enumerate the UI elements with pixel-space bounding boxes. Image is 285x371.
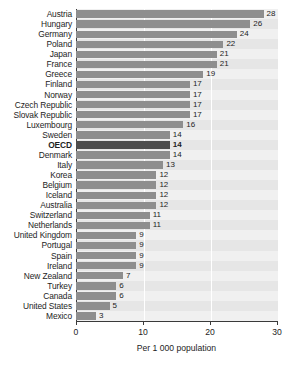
- bar-row: Germany24: [0, 29, 285, 39]
- category-label-mexico: Mexico: [0, 311, 72, 321]
- category-label-ireland: Ireland: [0, 261, 72, 271]
- bar-value-label: 9: [139, 261, 143, 271]
- bar-value-label: 3: [99, 311, 103, 321]
- category-label-switzerland: Switzerland: [0, 210, 72, 220]
- category-label-new-zealand: New Zealand: [0, 271, 72, 281]
- category-label-hungary: Hungary: [0, 19, 72, 29]
- x-tick-label: 20: [205, 327, 215, 337]
- bar: [76, 81, 190, 88]
- bar-value-label: 17: [193, 90, 202, 100]
- bar: [76, 111, 190, 118]
- category-label-austria: Austria: [0, 9, 72, 19]
- category-label-japan: Japan: [0, 49, 72, 59]
- bar: [76, 242, 136, 249]
- bar-value-label: 14: [173, 150, 182, 160]
- bar-row: Portugal9: [0, 240, 285, 250]
- category-label-turkey: Turkey: [0, 281, 72, 291]
- bar: [76, 252, 136, 259]
- chart-title-remnant: [0, 0, 285, 1]
- bar-value-label: 16: [186, 120, 195, 130]
- bar-row: Hungary26: [0, 19, 285, 29]
- bar-row: Mexico3: [0, 311, 285, 321]
- category-label-czech-republic: Czech Republic: [0, 100, 72, 110]
- bar: [76, 202, 156, 209]
- x-tick-label: 0: [74, 327, 79, 337]
- bar-row: Denmark14: [0, 150, 285, 160]
- bar-row: Australia12: [0, 200, 285, 210]
- bar: [76, 41, 223, 48]
- category-label-slovak-republic: Slovak Republic: [0, 110, 72, 120]
- bar-row: New Zealand7: [0, 271, 285, 281]
- bar: [76, 141, 170, 148]
- category-label-italy: Italy: [0, 160, 72, 170]
- bar: [76, 20, 250, 27]
- category-label-iceland: Iceland: [0, 190, 72, 200]
- category-label-luxembourg: Luxembourg: [0, 120, 72, 130]
- bar-value-label: 12: [159, 170, 168, 180]
- bar-value-label: 6: [119, 291, 123, 301]
- bar-value-label: 21: [220, 59, 229, 69]
- bar: [76, 272, 123, 279]
- category-label-australia: Australia: [0, 200, 72, 210]
- bar-row: Switzerland11: [0, 210, 285, 220]
- bar: [76, 181, 156, 188]
- bar: [76, 61, 217, 68]
- category-label-united-states: United States: [0, 301, 72, 311]
- category-label-finland: Finland: [0, 79, 72, 89]
- category-label-netherlands: Netherlands: [0, 220, 72, 230]
- bar: [76, 131, 170, 138]
- category-label-united-kingdom: United Kingdom: [0, 230, 72, 240]
- x-tick-label: 30: [272, 327, 282, 337]
- x-tick: [210, 321, 211, 325]
- bar: [76, 192, 156, 199]
- bar-row: Canada6: [0, 291, 285, 301]
- bar: [76, 222, 150, 229]
- bar-row: Luxembourg16: [0, 120, 285, 130]
- bar: [76, 101, 190, 108]
- bar-row: Belgium12: [0, 180, 285, 190]
- bar-row: Spain9: [0, 251, 285, 261]
- x-tick-label: 10: [138, 327, 148, 337]
- bar-row: Turkey6: [0, 281, 285, 291]
- bar-chart: Austria28Hungary26Germany24Poland22Japan…: [0, 0, 285, 371]
- bar-row: Austria28: [0, 9, 285, 19]
- bar-value-label: 6: [119, 281, 123, 291]
- category-label-norway: Norway: [0, 90, 72, 100]
- bar-row: Poland22: [0, 39, 285, 49]
- bar-row: United States5: [0, 301, 285, 311]
- bar-value-label: 19: [206, 69, 215, 79]
- x-axis-line: [76, 321, 277, 322]
- bar-row: Netherlands11: [0, 220, 285, 230]
- bar-value-label: 24: [240, 29, 249, 39]
- category-label-denmark: Denmark: [0, 150, 72, 160]
- x-tick: [143, 321, 144, 325]
- bar-row: Slovak Republic17: [0, 110, 285, 120]
- category-label-korea: Korea: [0, 170, 72, 180]
- category-label-poland: Poland: [0, 39, 72, 49]
- bar: [76, 10, 264, 17]
- category-label-belgium: Belgium: [0, 180, 72, 190]
- bar: [76, 121, 183, 128]
- category-label-oecd: OECD: [0, 140, 72, 150]
- bar-value-label: 9: [139, 251, 143, 261]
- bar-value-label: 17: [193, 110, 202, 120]
- bar-value-label: 17: [193, 79, 202, 89]
- bar: [76, 232, 136, 239]
- x-tick: [277, 321, 278, 325]
- bar-value-label: 28: [267, 9, 276, 19]
- bar: [76, 312, 96, 319]
- bar: [76, 212, 150, 219]
- bar-row: France21: [0, 59, 285, 69]
- bar: [76, 71, 203, 78]
- bar-value-label: 12: [159, 190, 168, 200]
- bar: [76, 171, 156, 178]
- bar: [76, 302, 110, 309]
- bar: [76, 282, 116, 289]
- bar-row: United Kingdom9: [0, 230, 285, 240]
- bar-value-label: 21: [220, 49, 229, 59]
- bar: [76, 262, 136, 269]
- x-axis-title: Per 1 000 population: [76, 343, 277, 353]
- bar-value-label: 14: [173, 130, 182, 140]
- bar-row: Sweden14: [0, 130, 285, 140]
- bar-value-label: 26: [253, 19, 262, 29]
